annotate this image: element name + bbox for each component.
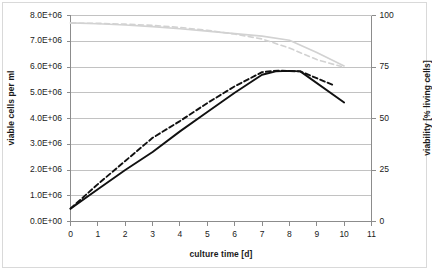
series-line	[71, 71, 334, 209]
y-axis-left-tick-label: 6.0E+06	[10, 61, 62, 71]
y-axis-left-tick-label: 8.0E+06	[10, 10, 62, 20]
y-axis-left-tick-label: 4.0E+06	[10, 113, 62, 123]
x-axis-tick-label: 4	[170, 229, 190, 239]
x-axis-tick-label: 7	[252, 229, 272, 239]
y-axis-right-title: viability [% living cells]	[422, 33, 432, 183]
x-axis-tick-label: 10	[334, 229, 354, 239]
y-axis-left-tick-label: 7.0E+06	[10, 35, 62, 45]
series-line	[71, 23, 345, 66]
x-axis-tick-label: 5	[197, 229, 217, 239]
series-line	[71, 71, 345, 209]
x-axis-tick-label: 11	[362, 229, 382, 239]
x-axis-tick-label: 3	[143, 229, 163, 239]
x-axis-tick-label: 8	[279, 229, 299, 239]
x-axis-tick-label: 6	[225, 229, 245, 239]
x-axis-title: culture time [d]	[70, 249, 372, 259]
y-axis-right-tick-label: 75	[380, 61, 410, 71]
y-axis-left-tick-label: 1.0E+06	[10, 190, 62, 200]
x-axis-tick-label: 2	[115, 229, 135, 239]
y-axis-right-tick-label: 100	[380, 10, 410, 20]
y-axis-right-tick-label: 0	[380, 216, 410, 226]
y-axis-left-title: viable cells per ml	[6, 33, 16, 183]
y-axis-left-tick-label: 5.0E+06	[10, 87, 62, 97]
y-axis-right-tick-label: 25	[380, 164, 410, 174]
y-axis-left-tick-label: 0.0E+00	[10, 216, 62, 226]
y-axis-left-tick-label: 2.0E+06	[10, 164, 62, 174]
y-axis-left-tick-label: 3.0E+06	[10, 138, 62, 148]
x-axis-tick-label: 1	[88, 229, 108, 239]
y-axis-right-tick-label: 50	[380, 113, 410, 123]
x-axis-tick-label: 0	[61, 229, 81, 239]
x-axis-tick-label: 9	[307, 229, 327, 239]
